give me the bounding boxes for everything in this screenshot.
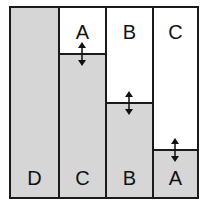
- column-3-top-label: B: [107, 22, 152, 42]
- double-arrow-icon: [76, 42, 88, 66]
- column-4-top-label: C: [154, 22, 197, 42]
- column-4-bottom-label: A: [154, 168, 197, 188]
- column-3: B B: [107, 8, 152, 197]
- column-1-bottom-label: D: [11, 168, 58, 188]
- column-4: C A: [154, 8, 197, 197]
- column-3-bottom-label: B: [107, 168, 152, 188]
- column-2: A C: [60, 8, 105, 197]
- column-1: D: [11, 8, 58, 197]
- double-arrow-icon: [169, 138, 181, 162]
- column-2-top-label: A: [60, 22, 105, 42]
- double-arrow-icon: [123, 91, 135, 115]
- diagram-frame: D A C B B C A: [9, 6, 199, 199]
- column-2-bottom-label: C: [60, 168, 105, 188]
